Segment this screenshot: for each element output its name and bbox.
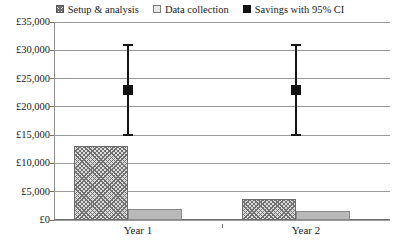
error-bar-cap-lower xyxy=(291,134,301,136)
hatched-square-icon xyxy=(56,5,64,13)
legend-item-setup-analysis: Setup & analysis xyxy=(56,4,139,15)
x-axis-tick xyxy=(222,224,223,228)
y-axis-tick xyxy=(50,163,54,164)
filled-square-icon xyxy=(243,5,251,13)
error-bar-cap-upper xyxy=(291,44,301,46)
gridline xyxy=(54,22,390,23)
legend-label-data-collection: Data collection xyxy=(165,4,229,15)
y-axis-tick-label: £10,000 xyxy=(0,158,50,168)
legend-item-savings-ci: Savings with 95% CI xyxy=(243,4,345,15)
x-axis-label-year-2: Year 2 xyxy=(256,224,356,237)
chart-legend: Setup & analysis Data collection Savings… xyxy=(0,1,400,17)
y-axis-tick-label: £35,000 xyxy=(0,17,50,27)
y-axis-tick-label: £15,000 xyxy=(0,130,50,140)
y-axis-labels: £35,000£30,000£25,000£20,000£15,000£10,0… xyxy=(0,22,50,220)
error-bar-year-1 xyxy=(118,22,138,220)
savings-point-marker xyxy=(123,85,133,95)
plot-area xyxy=(54,22,390,220)
gridline xyxy=(54,50,390,51)
y-axis-tick-label: £20,000 xyxy=(0,102,50,112)
y-axis-tick-label: £0 xyxy=(0,215,50,225)
x-axis-label-year-1: Year 1 xyxy=(88,224,188,237)
y-axis-tick xyxy=(50,135,54,136)
y-axis-tick xyxy=(50,78,54,79)
savings-point-marker xyxy=(291,85,301,95)
legend-label-savings-ci: Savings with 95% CI xyxy=(255,4,345,15)
chart-container: Setup & analysis Data collection Savings… xyxy=(0,0,400,249)
legend-item-data-collection: Data collection xyxy=(153,4,229,15)
y-axis-tick xyxy=(50,220,54,221)
y-axis-tick-label: £5,000 xyxy=(0,187,50,197)
light-square-icon xyxy=(153,5,161,13)
y-axis-tick xyxy=(50,106,54,107)
y-axis-tick xyxy=(50,22,54,23)
y-axis-tick xyxy=(50,50,54,51)
y-axis-tick-label: £30,000 xyxy=(0,45,50,55)
gridline xyxy=(54,135,390,136)
gridline xyxy=(54,106,390,107)
legend-label-setup-analysis: Setup & analysis xyxy=(68,4,139,15)
y-axis-tick-label: £25,000 xyxy=(0,74,50,84)
error-bar-year-2 xyxy=(286,22,306,220)
gridline xyxy=(54,78,390,79)
error-bar-cap-upper xyxy=(123,44,133,46)
error-bar-cap-lower xyxy=(123,134,133,136)
x-axis-labels: Year 1Year 2 xyxy=(54,224,390,244)
y-axis-tick xyxy=(50,191,54,192)
